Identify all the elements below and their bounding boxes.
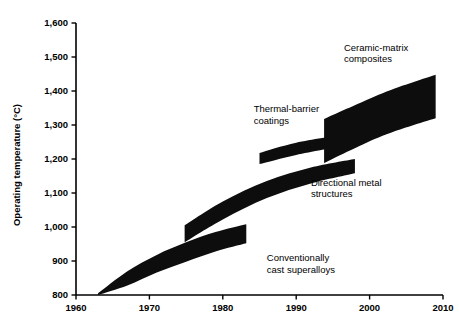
- y-tick-label: 1,400: [44, 85, 68, 96]
- y-tick-label: 900: [52, 255, 68, 266]
- y-tick-label: 1,500: [44, 51, 68, 62]
- y-tick-label: 800: [52, 289, 68, 300]
- chart-plot-area: 8009001,0001,1001,2001,3001,4001,5001,60…: [0, 0, 459, 327]
- y-tick-label: 1,200: [44, 153, 68, 164]
- band-4: [324, 75, 436, 163]
- annotation-directional: Directional metalstructures: [311, 177, 382, 200]
- annotation-thermal: Thermal-barriercoatings: [254, 103, 319, 126]
- x-tick-label: 2000: [359, 302, 380, 313]
- annotation-conventional: Conventionallycast superalloys: [267, 252, 335, 275]
- annotation-line: Ceramic-matrix: [344, 42, 409, 53]
- y-tick-label: 1,300: [44, 119, 68, 130]
- y-tick-label: 1,000: [44, 221, 68, 232]
- annotation-line: structures: [311, 188, 353, 199]
- annotation-line: cast superalloys: [267, 264, 335, 275]
- x-tick-label: 1980: [212, 302, 233, 313]
- x-tick-label: 1960: [65, 302, 86, 313]
- band-1: [98, 224, 246, 295]
- x-tick-label: 1990: [286, 302, 307, 313]
- band-2: [185, 159, 355, 242]
- chart-tick-labels: 8009001,0001,1001,2001,3001,4001,5001,60…: [44, 17, 453, 313]
- x-tick-label: 1970: [139, 302, 160, 313]
- annotation-line: Conventionally: [267, 252, 330, 263]
- chart-axes: [72, 23, 444, 300]
- y-axis-title: Operating temperature (°C): [11, 104, 22, 226]
- y-tick-label: 1,100: [44, 187, 68, 198]
- annotation-ceramic: Ceramic-matrixcomposites: [344, 42, 409, 65]
- annotation-line: coatings: [254, 115, 290, 126]
- y-tick-label: 1,600: [44, 17, 68, 28]
- chart-figure: 8009001,0001,1001,2001,3001,4001,5001,60…: [0, 0, 459, 327]
- annotation-line: composites: [344, 53, 392, 64]
- annotation-line: Directional metal: [311, 177, 382, 188]
- annotation-line: Thermal-barrier: [254, 103, 319, 114]
- x-tick-label: 2010: [432, 302, 453, 313]
